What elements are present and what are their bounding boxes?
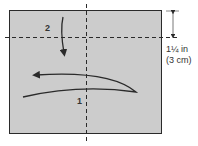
step-1-label: 1 <box>77 96 82 106</box>
step-2-label: 2 <box>45 23 50 33</box>
folding-diagram <box>0 0 198 146</box>
dimension-metric: (3 cm) <box>166 55 192 65</box>
dimension-imperial: 1¼ in <box>166 44 188 54</box>
paper-sheet <box>10 11 162 134</box>
